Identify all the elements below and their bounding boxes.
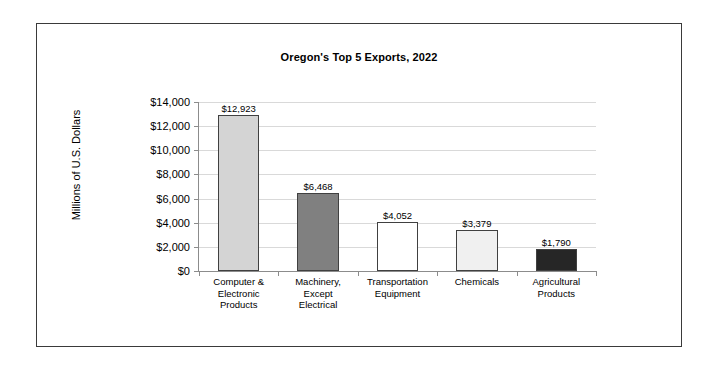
y-tick-label: $4,000 <box>156 217 190 229</box>
y-tick-mark <box>194 199 199 200</box>
x-category-label: Agricultural Products <box>510 276 603 299</box>
bar-value-label: $3,379 <box>462 218 491 229</box>
y-tick-label: $8,000 <box>156 168 190 180</box>
chart-title: Oregon's Top 5 Exports, 2022 <box>37 51 681 63</box>
bar-value-label: $1,790 <box>542 237 571 248</box>
bar: $1,790 <box>536 249 577 271</box>
bar-value-label: $12,923 <box>222 103 256 114</box>
chart-frame: Oregon's Top 5 Exports, 2022 Millions of… <box>36 23 682 347</box>
x-axis-line <box>198 271 596 272</box>
y-tick-label: $6,000 <box>156 193 190 205</box>
y-axis-title: Millions of U.S. Dollars <box>70 75 82 255</box>
y-tick-mark <box>194 150 199 151</box>
bar-value-label: $4,052 <box>383 210 412 221</box>
bar: $6,468 <box>297 193 338 271</box>
y-tick-label: $12,000 <box>150 120 190 132</box>
y-tick-label: $14,000 <box>150 96 190 108</box>
y-tick-label: $2,000 <box>156 241 190 253</box>
bar: $4,052 <box>377 222 418 271</box>
bar: $12,923 <box>218 115 259 271</box>
y-tick-mark <box>194 126 199 127</box>
y-tick-label: $0 <box>178 265 190 277</box>
gridline <box>199 102 596 103</box>
y-tick-mark <box>194 102 199 103</box>
y-tick-label: $10,000 <box>150 144 190 156</box>
bar-value-label: $6,468 <box>304 181 333 192</box>
y-tick-mark <box>194 247 199 248</box>
y-axis-line <box>198 102 199 271</box>
y-tick-mark <box>194 174 199 175</box>
bar: $3,379 <box>456 230 497 271</box>
y-tick-mark <box>194 223 199 224</box>
plot-area: $0$2,000$4,000$6,000$8,000$10,000$12,000… <box>199 102 596 271</box>
